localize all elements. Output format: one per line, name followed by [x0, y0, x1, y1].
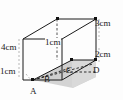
- dim-leader-1cm-bottom: [26, 74, 31, 80]
- vertex-label-b: B: [44, 75, 50, 84]
- cuboid-edge-top-back-left: [23, 19, 57, 39]
- vertex-marker-a: [31, 78, 34, 81]
- vertex-marker-c: [70, 58, 73, 61]
- dimension-label-left-bottom: 1cm: [0, 67, 16, 76]
- dimension-label-right-top: 3cm: [95, 19, 111, 28]
- dimension-label-right-bottom: 2cm: [95, 50, 111, 59]
- vertex-label-c: C: [66, 66, 72, 75]
- dimension-label-left-height: 4cm: [1, 43, 17, 52]
- vertex-label-a: A: [30, 87, 37, 96]
- dimension-label-middle-vertical: 1cm: [45, 38, 61, 47]
- geometry-figure: 4cm 1cm 1cm 3cm 2cm A B C D: [0, 0, 123, 100]
- vertex-marker-top-mid: [56, 17, 59, 20]
- vertex-label-d: D: [93, 66, 100, 75]
- cuboid-edge-top-front-right: [62, 19, 96, 39]
